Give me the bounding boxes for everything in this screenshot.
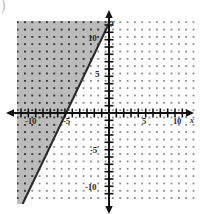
x-tick-label-5: 5 [142, 116, 146, 126]
y-axis-label: y [111, 18, 115, 27]
axes-layer [0, 0, 200, 214]
y-tick-label-neg5: -5 [90, 145, 97, 155]
x-tick-label-neg10: -10 [25, 116, 36, 126]
y-tick-label-10: 10 [88, 33, 96, 43]
y-tick-label-neg10: -10 [85, 182, 96, 192]
graph-figure: ) [0, 0, 200, 214]
x-axis-label: x [190, 116, 194, 125]
x-tick-label-10: 10 [173, 116, 181, 126]
y-tick-label-5: 5 [95, 69, 99, 79]
x-tick-label-neg5: -5 [63, 116, 70, 126]
